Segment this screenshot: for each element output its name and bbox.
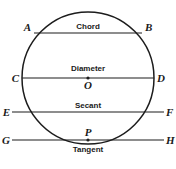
chord-label: Chord bbox=[76, 22, 100, 31]
circle-parts-diagram: Chord Diameter Secant Tangent A B C D E … bbox=[0, 0, 176, 169]
geometry-canvas: Chord Diameter Secant Tangent A B C D E … bbox=[0, 0, 176, 169]
point-label-p: P bbox=[85, 126, 92, 138]
tangent-point-dot bbox=[86, 138, 89, 141]
tangent-label: Tangent bbox=[73, 145, 104, 154]
point-label-e: E bbox=[2, 106, 10, 118]
point-label-a: A bbox=[23, 21, 31, 33]
point-label-c: C bbox=[12, 72, 20, 84]
secant-label: Secant bbox=[75, 101, 102, 110]
point-label-d: D bbox=[156, 72, 165, 84]
point-label-g: G bbox=[2, 134, 10, 146]
point-label-o: O bbox=[84, 79, 92, 91]
diameter-label: Diameter bbox=[71, 64, 105, 73]
point-label-b: B bbox=[144, 21, 152, 33]
point-label-f: F bbox=[165, 106, 174, 118]
point-label-h: H bbox=[165, 134, 175, 146]
